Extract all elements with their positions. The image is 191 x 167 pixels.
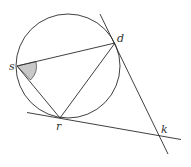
tangent-at-r bbox=[27, 113, 181, 140]
tangent-at-d bbox=[100, 14, 168, 154]
geometry-diagram: s d r k bbox=[0, 0, 191, 167]
label-k: k bbox=[161, 123, 168, 136]
label-r: r bbox=[56, 120, 62, 133]
label-d: d bbox=[117, 32, 124, 45]
label-s: s bbox=[9, 60, 15, 73]
